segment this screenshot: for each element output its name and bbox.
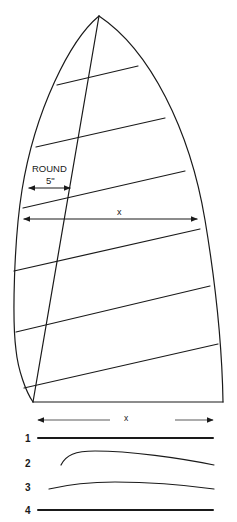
section-number-4: 4 bbox=[25, 505, 31, 516]
luff-chord-line bbox=[33, 16, 99, 402]
seam-2 bbox=[36, 118, 165, 147]
width-label: x bbox=[117, 207, 122, 217]
seam-1 bbox=[57, 66, 138, 85]
section-number-3: 3 bbox=[25, 482, 31, 493]
seam-4 bbox=[14, 229, 200, 271]
section-number-1: 1 bbox=[25, 433, 31, 444]
panel-seams bbox=[14, 66, 218, 388]
width-annotation: x bbox=[24, 207, 197, 219]
luff-curve bbox=[14, 16, 99, 402]
foot-width-annotation: x bbox=[38, 413, 213, 423]
profile-2-curve bbox=[61, 451, 214, 465]
round-value: 5" bbox=[46, 175, 55, 186]
seam-5 bbox=[16, 286, 210, 332]
round-title: ROUND bbox=[32, 163, 67, 174]
sail-diagram: ROUND 5" x x 1 2 3 4 bbox=[0, 0, 237, 522]
round-annotation: ROUND 5" bbox=[29, 163, 70, 188]
foot-width-label: x bbox=[124, 413, 129, 423]
profile-3-curve bbox=[49, 482, 214, 489]
section-number-2: 2 bbox=[25, 458, 31, 469]
section-profiles: 1 2 3 4 bbox=[25, 433, 214, 516]
seam-6 bbox=[24, 344, 218, 388]
